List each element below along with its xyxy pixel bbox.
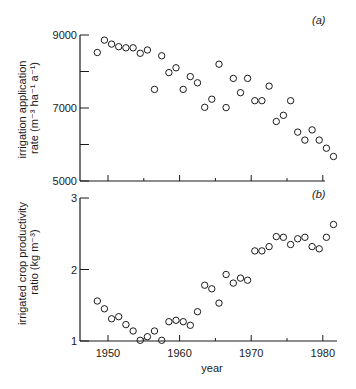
data-point (187, 73, 193, 79)
data-point (309, 243, 315, 249)
panel-b-y-axis-label-line1: irrigated crop productivity (16, 202, 28, 325)
data-point (194, 80, 200, 86)
data-point (108, 316, 114, 322)
y-tick-label: 3 (71, 192, 77, 204)
data-point (151, 328, 157, 334)
panel-b-productivity-ratio: 1231950196019701980 (b) irrigated crop p… (16, 188, 337, 374)
panel-a-y-axis-label: irrigation application rate (m⁻³ ha⁻¹ a⁻… (16, 58, 40, 159)
panel-b-y-axis-label: irrigated crop productivity ratio (kg m⁻… (16, 199, 40, 325)
data-point (180, 319, 186, 325)
data-point (108, 41, 114, 47)
data-point (244, 75, 250, 81)
data-point (194, 309, 200, 315)
data-point (173, 317, 179, 323)
data-point (223, 271, 229, 277)
data-point (230, 280, 236, 286)
data-point (123, 321, 129, 327)
data-point (94, 298, 100, 304)
data-point (144, 47, 150, 53)
data-point (295, 129, 301, 135)
data-point (202, 104, 208, 110)
data-point (259, 98, 265, 104)
data-point (130, 45, 136, 51)
panel-b-label: (b) (312, 188, 326, 200)
data-point (244, 277, 250, 283)
data-point (316, 246, 322, 252)
panel-a-label: (a) (312, 14, 326, 26)
panel-a-y-axis-label-line1: irrigation application (16, 61, 28, 159)
data-point (101, 306, 107, 312)
data-point (159, 53, 165, 59)
data-point (295, 236, 301, 242)
data-point (266, 83, 272, 89)
data-point (216, 61, 222, 67)
data-point (252, 98, 258, 104)
data-point (187, 322, 193, 328)
x-tick-label: 1980 (311, 347, 335, 359)
chart-canvas: 500070009000 (a) irrigation application … (0, 0, 356, 389)
data-point (280, 112, 286, 118)
data-point (287, 98, 293, 104)
data-point (144, 334, 150, 340)
data-point (273, 118, 279, 124)
data-point (266, 243, 272, 249)
y-tick-label: 5000 (53, 175, 77, 187)
data-point (130, 328, 136, 334)
data-point (237, 275, 243, 281)
panel-a-axes: 500070009000 (53, 29, 325, 187)
x-tick-label: 1970 (239, 347, 263, 359)
data-point (116, 44, 122, 50)
data-point (173, 65, 179, 71)
y-tick-label: 1 (71, 335, 77, 347)
data-point (330, 153, 336, 159)
data-point (330, 221, 336, 227)
data-point (209, 96, 215, 102)
x-tick-label: 1960 (167, 347, 191, 359)
data-point (101, 37, 107, 43)
y-tick-label: 7000 (53, 102, 77, 114)
data-point (323, 145, 329, 151)
y-tick-label: 2 (71, 264, 77, 276)
data-point (316, 137, 322, 143)
data-point (137, 337, 143, 343)
data-point (323, 234, 329, 240)
data-point (280, 234, 286, 240)
data-point (116, 314, 122, 320)
data-point (287, 241, 293, 247)
data-point (302, 137, 308, 143)
data-point (202, 282, 208, 288)
panel-a-data-points (94, 37, 337, 160)
data-point (237, 90, 243, 96)
data-point (223, 104, 229, 110)
data-point (216, 300, 222, 306)
data-point (137, 50, 143, 56)
data-point (259, 248, 265, 254)
panel-b-data-points (94, 221, 337, 343)
data-point (309, 127, 315, 133)
x-axis-title: year (201, 362, 223, 374)
data-point (94, 49, 100, 55)
panel-a-y-axis-label-line2: rate (m⁻³ ha⁻¹ a⁻¹) (28, 62, 40, 154)
data-point (230, 75, 236, 81)
data-point (252, 248, 258, 254)
data-point (166, 69, 172, 75)
panel-a-irrigation-rate: 500070009000 (a) irrigation application … (16, 14, 337, 187)
data-point (302, 234, 308, 240)
data-point (159, 337, 165, 343)
data-point (180, 86, 186, 92)
figure: 500070009000 (a) irrigation application … (0, 0, 356, 389)
data-point (166, 319, 172, 325)
x-tick-label: 1950 (96, 347, 120, 359)
data-point (273, 233, 279, 239)
panel-b-axes: 1231950196019701980 (71, 192, 337, 359)
data-point (151, 86, 157, 92)
data-point (123, 45, 129, 51)
panel-b-y-axis-label-line2: ratio (kg m⁻³) (28, 229, 40, 294)
y-tick-label: 9000 (53, 29, 77, 41)
data-point (209, 286, 215, 292)
